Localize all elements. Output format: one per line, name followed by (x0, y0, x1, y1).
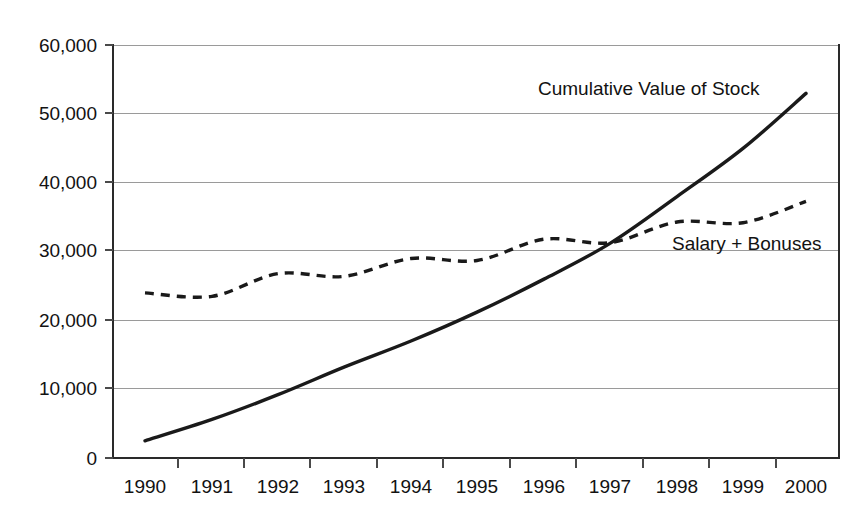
x-axis-label-2000: 2000 (785, 476, 827, 497)
chart-canvas: 60,000 50,000 40,000 30,000 20,000 10,00… (0, 0, 863, 523)
x-axis-label-1996: 1996 (523, 476, 565, 497)
y-axis-label-10000: 10,000 (39, 378, 97, 399)
x-axis-label-1991: 1991 (191, 476, 233, 497)
x-axis-label-1998: 1998 (656, 476, 698, 497)
y-axis-label-20000: 20,000 (39, 310, 97, 331)
y-axis-label-30000: 30,000 (39, 240, 97, 261)
x-axis-label-1999: 1999 (722, 476, 764, 497)
y-axis-label-50000: 50,000 (39, 103, 97, 124)
y-axis-label-0: 0 (86, 448, 97, 469)
series-annotations: Cumulative Value of Stock Salary + Bonus… (538, 78, 821, 254)
x-axis-label-1993: 1993 (323, 476, 365, 497)
y-axis-labels: 60,000 50,000 40,000 30,000 20,000 10,00… (39, 35, 97, 469)
x-axis-label-1990: 1990 (124, 476, 166, 497)
x-axis-label-1997: 1997 (589, 476, 631, 497)
x-tick-marks (178, 458, 776, 468)
y-axis-label-60000: 60,000 (39, 35, 97, 56)
annotation-cumulative-value-of-stock: Cumulative Value of Stock (538, 78, 760, 99)
y-tick-marks (105, 45, 113, 458)
series-cumulative-value-of-stock (145, 93, 806, 440)
x-axis-label-1994: 1994 (390, 476, 433, 497)
x-axis-label-1992: 1992 (257, 476, 299, 497)
x-axis-label-1995: 1995 (456, 476, 498, 497)
x-axis-labels: 1990 1991 1992 1993 1994 1995 1996 1997 … (124, 476, 827, 497)
line-chart: 60,000 50,000 40,000 30,000 20,000 10,00… (0, 0, 863, 523)
data-series (145, 93, 806, 440)
annotation-salary-bonuses: Salary + Bonuses (672, 233, 821, 254)
y-axis-label-40000: 40,000 (39, 172, 97, 193)
